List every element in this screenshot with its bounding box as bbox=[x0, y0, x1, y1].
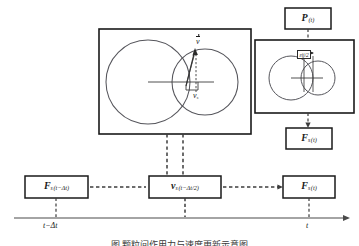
pressure-argument: (t) bbox=[308, 16, 314, 23]
axis-label-left: t−Δt bbox=[43, 222, 58, 230]
force-prev-symbol: F bbox=[44, 180, 51, 191]
pressure-box-label: P(t) bbox=[285, 13, 331, 24]
velocity-vector-label: v bbox=[196, 38, 200, 46]
velocity-component-subscript: s bbox=[197, 95, 199, 100]
force-prev-argument: (t−Δt) bbox=[53, 184, 69, 191]
force-now-argument: (t) bbox=[311, 184, 317, 191]
force-now-subscript: s bbox=[308, 185, 310, 191]
axis-label-right: t bbox=[306, 222, 308, 230]
figure-caption: 图 颗粒间作用力与速度更新示意图 bbox=[0, 238, 359, 246]
force-prev-box-label: Fs(t−Δt) bbox=[25, 181, 88, 192]
force-right-symbol: F bbox=[301, 132, 308, 143]
time-axis-arrowhead bbox=[343, 215, 350, 221]
connector-detail-to-force-right-arrowhead bbox=[305, 123, 310, 128]
pressure-symbol: P bbox=[302, 12, 308, 23]
velocity-component-label: vs bbox=[193, 92, 199, 101]
velocity-mid-box-label: vs(t−Δt/2) bbox=[149, 181, 221, 192]
force-right-subscript: s bbox=[308, 137, 310, 143]
overlap-tag-text: εij/2 bbox=[297, 50, 311, 59]
figure-canvas: P(t) Fs(t) Fs(t−Δt) vs(t−Δt/2) Fs(t) v v… bbox=[0, 0, 359, 246]
force-right-box-label: Fs(t) bbox=[286, 133, 332, 144]
velocity-vector-symbol: v bbox=[196, 38, 200, 46]
overlap-tag: εij/2 bbox=[297, 43, 311, 59]
velocity-mid-argument: (t−Δt/2) bbox=[178, 184, 199, 191]
force-now-symbol: F bbox=[301, 180, 308, 191]
force-right-argument: (t) bbox=[311, 136, 317, 143]
main-panel-frame bbox=[99, 29, 251, 134]
diagram-vector-layer bbox=[0, 0, 359, 246]
force-now-box-label: Fs(t) bbox=[283, 181, 335, 192]
